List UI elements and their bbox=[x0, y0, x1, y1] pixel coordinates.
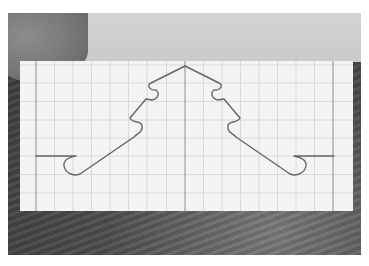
drawing-overlay bbox=[0, 0, 369, 266]
grid-lines bbox=[20, 61, 353, 211]
